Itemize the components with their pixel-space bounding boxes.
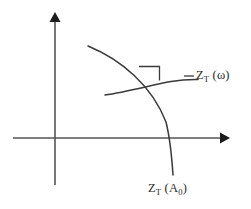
- curve-label-zt-a0: ZT (A0): [148, 182, 187, 195]
- curve-label-zt-omega: ZT (ω): [196, 69, 230, 82]
- y-axis-arrowhead: [50, 12, 61, 22]
- x-axis: [13, 133, 230, 144]
- zt-omega-argument: (ω): [209, 68, 229, 82]
- zt-omega-subscript-t: T: [204, 74, 209, 84]
- x-axis-arrowhead: [220, 133, 230, 144]
- impedance-figure: ZT (ω) ZT (A0): [0, 0, 251, 209]
- zt-a0-argument-close: ): [183, 181, 187, 195]
- right-angle-marker: [139, 67, 160, 81]
- zt-a0-argument-subscript: 0: [178, 187, 182, 197]
- zt-a0-arc-path: [88, 46, 173, 175]
- zt-omega-z: Z: [196, 68, 204, 82]
- y-axis: [50, 12, 61, 185]
- figure-canvas: [0, 0, 251, 209]
- zt-a0-z: Z: [148, 181, 156, 195]
- zt-omega-curve-path: [105, 79, 198, 95]
- zt-a0-argument-open: (A: [161, 181, 178, 195]
- zt-a0-subscript-t: T: [156, 187, 161, 197]
